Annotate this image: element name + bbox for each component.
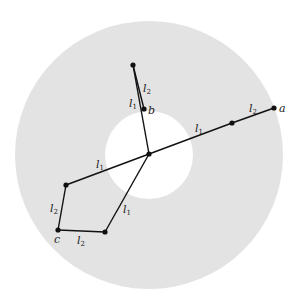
- label-c: c: [54, 233, 60, 246]
- label-a: a: [279, 102, 286, 115]
- elbow-a-dot: [229, 120, 234, 125]
- end-c-dot: [55, 227, 60, 232]
- end-b-dot: [141, 106, 146, 111]
- label-b: b: [148, 104, 155, 117]
- elbow-b-dot: [130, 62, 135, 67]
- workspace-diagram: a b c l1 l2 l1 l2 l1 l1 l2 l2: [0, 0, 303, 300]
- base-joint-dot: [146, 151, 151, 156]
- end-a-dot: [271, 105, 276, 110]
- elbow-c-upper-dot: [63, 182, 68, 187]
- elbow-c-lower-dot: [102, 229, 107, 234]
